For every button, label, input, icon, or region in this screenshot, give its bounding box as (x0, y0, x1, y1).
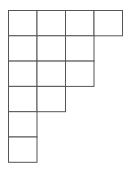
diagram-cell-r3-c1 (9, 61, 38, 86)
diagram-cell-r3-c2 (37, 61, 66, 86)
young-diagram (0, 0, 131, 172)
diagram-cell-r3-c3 (66, 61, 95, 86)
diagram-cell-r1-c4 (94, 11, 123, 36)
diagram-cell-r1-c3 (66, 11, 95, 36)
diagram-cell-r6-c1 (9, 137, 38, 162)
diagram-cell-r5-c1 (9, 112, 38, 137)
diagram-cell-r4-c2 (37, 86, 66, 111)
diagram-cell-r4-c1 (9, 86, 38, 111)
diagram-cell-r1-c2 (37, 11, 66, 36)
diagram-cell-r2-c3 (66, 36, 95, 61)
diagram-cell-r2-c1 (9, 36, 38, 61)
diagram-cell-r2-c2 (37, 36, 66, 61)
diagram-cell-r1-c1 (9, 11, 38, 36)
